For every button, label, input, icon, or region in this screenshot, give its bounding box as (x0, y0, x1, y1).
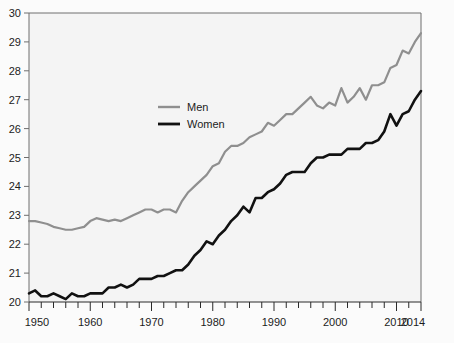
y-tick-label: 24 (9, 180, 21, 192)
x-axis-labels: 19501960197019801990200020102014 (25, 316, 425, 328)
y-tick-label: 28 (9, 65, 21, 77)
chart-container: 2021222324252627282930 19501960197019801… (0, 0, 454, 343)
y-tick-label: 29 (9, 36, 21, 48)
y-tick-label: 22 (9, 238, 21, 250)
y-tick-label: 25 (9, 152, 21, 164)
plot-background (29, 13, 421, 302)
x-tick-label: 1960 (78, 316, 102, 328)
line-chart: 2021222324252627282930 19501960197019801… (0, 0, 454, 343)
y-tick-label: 23 (9, 209, 21, 221)
legend-label-men: Men (187, 101, 208, 113)
y-tick-label: 21 (9, 267, 21, 279)
legend-label-women: Women (187, 118, 225, 130)
y-tick-label: 26 (9, 123, 21, 135)
y-tick-label: 30 (9, 7, 21, 19)
x-tick-label: 2000 (323, 316, 347, 328)
x-tick-label: 2014 (401, 316, 425, 328)
y-tick-label: 20 (9, 296, 21, 308)
y-tick-label: 27 (9, 94, 21, 106)
x-tick-label: 1970 (139, 316, 163, 328)
x-tick-label: 1990 (262, 316, 286, 328)
x-tick-label: 1950 (25, 316, 49, 328)
y-axis-labels: 2021222324252627282930 (9, 7, 21, 308)
x-tick-label: 1980 (201, 316, 225, 328)
